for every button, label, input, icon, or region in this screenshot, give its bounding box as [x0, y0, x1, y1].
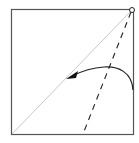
pivot-point-icon — [130, 8, 135, 13]
origami-diagram — [0, 0, 139, 143]
